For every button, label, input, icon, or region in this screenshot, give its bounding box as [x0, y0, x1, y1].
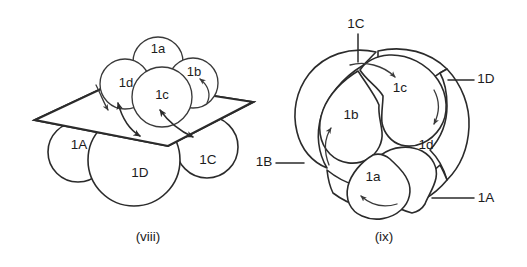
- callout-1B: 1B: [256, 154, 304, 169]
- label-macromere-1A: 1A: [71, 137, 88, 152]
- label-callout-1A: 1A: [478, 190, 495, 205]
- figure-canvas: 1a 1b 1c 1d 1A 1D 1C (viii): [0, 0, 527, 267]
- caption-panel-ix: (ix): [375, 229, 394, 244]
- label-macromere-1D: 1D: [131, 165, 149, 180]
- label-micromere-1d: 1d: [119, 75, 133, 90]
- label-micromere-1c: 1c: [393, 80, 408, 95]
- label-micromere-1d: 1d: [418, 137, 433, 152]
- label-callout-1C: 1C: [347, 16, 365, 31]
- label-micromere-1a: 1a: [365, 169, 381, 184]
- caption-panel-viii: (viii): [136, 229, 161, 244]
- callout-1A: 1A: [432, 190, 494, 205]
- panel-viii: 1a 1b 1c 1d 1A 1D 1C (viii): [35, 37, 268, 244]
- embryo-cleavage-figure: 1a 1b 1c 1d 1A 1D 1C (viii): [0, 0, 527, 267]
- label-micromere-1c: 1c: [155, 87, 169, 102]
- label-micromere-1b: 1b: [187, 64, 201, 79]
- panel-ix: 1c 1b 1d 1a 1C 1D 1B 1A (ix): [256, 16, 495, 244]
- label-micromere-1a: 1a: [151, 41, 166, 56]
- label-micromere-1b: 1b: [343, 107, 358, 122]
- label-callout-1B: 1B: [256, 154, 273, 169]
- label-macromere-1C: 1C: [199, 152, 217, 167]
- label-callout-1D: 1D: [477, 71, 495, 86]
